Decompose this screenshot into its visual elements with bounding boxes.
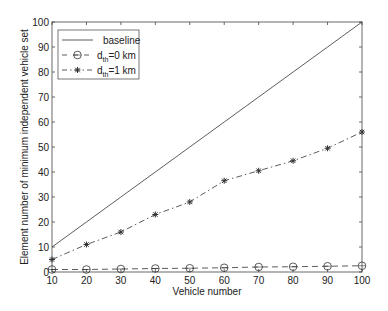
y-tick-label: 30 [38, 192, 50, 203]
y-tick-label: 10 [38, 242, 50, 253]
x-tick-label: 20 [81, 275, 93, 286]
legend-label: baseline [103, 35, 141, 46]
x-tick-label: 40 [150, 275, 162, 286]
legend: baselinedth=0 kmdth=1 km [58, 30, 141, 79]
x-tick-label: 90 [322, 275, 334, 286]
y-tick-label: 20 [38, 217, 50, 228]
x-tick-label: 30 [115, 275, 127, 286]
line-chart: 0102030405060708090100 10203040506070809… [0, 0, 388, 311]
y-tick-label: 60 [38, 117, 50, 128]
y-tick-label: 70 [38, 92, 50, 103]
y-tick-label: 100 [32, 17, 49, 28]
x-tick-label: 80 [288, 275, 300, 286]
series-d-th-0-km [48, 262, 366, 273]
y-tick-label: 90 [38, 42, 50, 53]
y-tick-label: 50 [38, 142, 50, 153]
x-tick-label: 10 [46, 275, 58, 286]
x-tick-label: 70 [253, 275, 265, 286]
series-d-th-1-km [49, 129, 365, 263]
y-tick-label: 80 [38, 67, 50, 78]
y-axis-label: Element number of minimum independent ve… [19, 29, 30, 265]
x-tick-label: 50 [184, 275, 196, 286]
y-tick-label: 40 [38, 167, 50, 178]
x-tick-label: 60 [219, 275, 231, 286]
x-axis-label: Vehicle number [173, 286, 243, 297]
x-tick-label: 100 [354, 275, 371, 286]
